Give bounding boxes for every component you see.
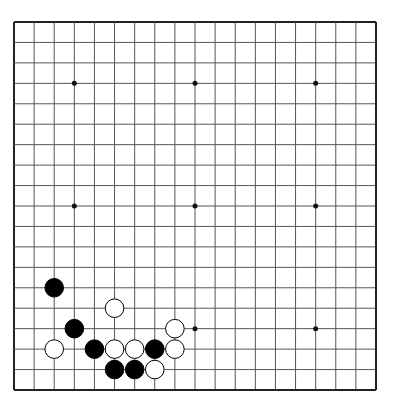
white-stone xyxy=(125,340,144,359)
white-stone xyxy=(166,340,185,359)
black-stone xyxy=(145,340,164,359)
white-stone xyxy=(166,319,185,338)
go-board[interactable] xyxy=(0,0,393,408)
star-point xyxy=(193,81,198,86)
black-stone xyxy=(125,360,144,379)
black-stone xyxy=(45,278,64,297)
black-stone xyxy=(105,360,124,379)
star-point xyxy=(72,204,77,209)
star-point xyxy=(313,81,318,86)
white-stone xyxy=(105,340,124,359)
white-stone xyxy=(145,360,164,379)
star-point xyxy=(193,326,198,331)
white-stone xyxy=(45,340,64,359)
star-point xyxy=(193,204,198,209)
star-point xyxy=(313,204,318,209)
black-stone xyxy=(85,340,104,359)
star-point xyxy=(313,326,318,331)
star-point xyxy=(72,81,77,86)
white-stone xyxy=(105,299,124,318)
black-stone xyxy=(65,319,84,338)
